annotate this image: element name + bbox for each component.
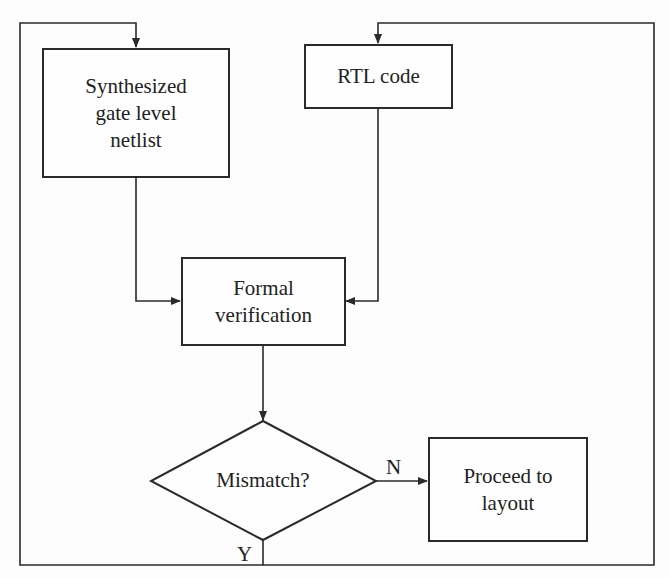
rtl-to-formal-arrow [346,108,378,301]
synthesized-netlist-label: Synthesized gate level netlist [85,73,186,154]
netlist-to-formal-arrow [136,177,180,301]
rtl-code-box: RTL code [304,44,453,109]
formal-verification-box: Formal verification [181,257,346,346]
formal-verification-label: Formal verification [215,275,312,329]
no-branch-label: N [386,455,401,479]
yes-branch-label: Y [237,542,252,566]
synthesized-netlist-box: Synthesized gate level netlist [42,48,230,178]
proceed-to-layout-label: Proceed to layout [463,463,552,517]
proceed-to-layout-box: Proceed to layout [428,437,588,542]
rtl-code-label: RTL code [337,63,420,90]
mismatch-label: Mismatch? [183,468,343,493]
